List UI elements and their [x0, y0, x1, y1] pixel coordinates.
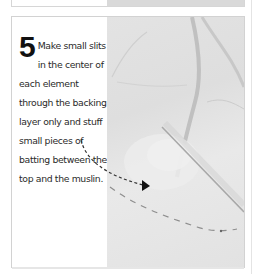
page-edge-rule	[251, 0, 252, 274]
card-shadow	[12, 267, 244, 269]
step-photo	[107, 17, 244, 267]
quilt-photo-illustration	[107, 17, 244, 267]
previous-step-card	[11, 0, 245, 7]
step-instructions: 5 Make small slits in the center of each…	[19, 34, 111, 186]
previous-step-photo	[107, 0, 244, 6]
step-card: 5 Make small slits in the center of each…	[11, 16, 245, 268]
step-number: 5	[19, 36, 35, 58]
